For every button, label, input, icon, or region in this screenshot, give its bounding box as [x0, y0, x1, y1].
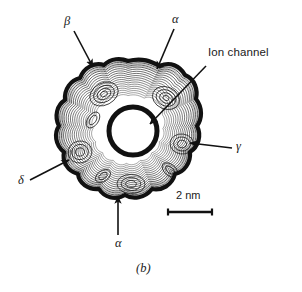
subunit-label-gamma: γ	[236, 140, 241, 153]
density-ridge-left	[83, 110, 102, 131]
figure-container: Ion channel β α γ δ α 2 nm (b)	[0, 0, 302, 292]
arrow-beta	[74, 31, 93, 67]
ion-channel-pore	[109, 107, 157, 155]
subunit-label-alpha-top: α	[172, 13, 179, 26]
subunit-label-delta: δ	[18, 174, 24, 187]
subunit-label-beta: β	[64, 15, 70, 28]
scale-bar-label: 2 nm	[176, 190, 200, 201]
figure-caption: (b)	[136, 262, 151, 275]
receptor-density-map	[56, 59, 201, 198]
ion-channel-label: Ion channel	[208, 47, 269, 59]
scale-bar	[168, 209, 212, 216]
receptor-contour-figure	[0, 0, 302, 292]
arrow-delta	[30, 160, 69, 180]
subunit-label-alpha-bottom: α	[115, 237, 122, 250]
